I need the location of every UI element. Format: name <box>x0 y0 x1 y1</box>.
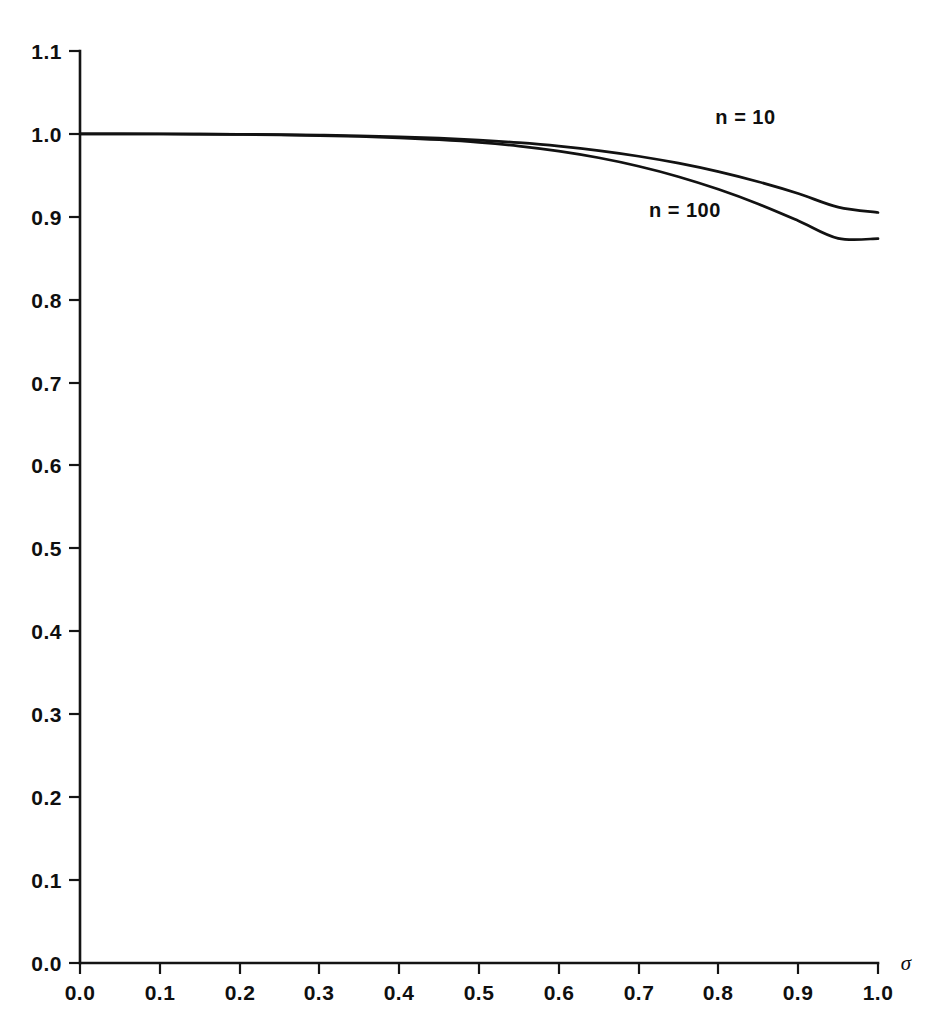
y-tick-label: 0.1 <box>31 869 62 892</box>
chart-figure: 1.1 1.0 0.9 0.8 0.7 0.6 0.5 0.4 0.3 0.2 … <box>0 0 945 1033</box>
series-line-n-10 <box>80 134 878 213</box>
y-tick-label: 1.0 <box>31 123 62 146</box>
x-tick-label: 1.0 <box>863 981 894 1004</box>
x-tick-label: 0.9 <box>783 981 814 1004</box>
y-tick-label: 0.5 <box>31 537 62 560</box>
x-tick-label: 0.0 <box>65 981 96 1004</box>
x-tick-label: 0.6 <box>544 981 575 1004</box>
chart-canvas: 1.1 1.0 0.9 0.8 0.7 0.6 0.5 0.4 0.3 0.2 … <box>0 0 945 1033</box>
y-tick-label: 0.0 <box>31 952 62 975</box>
y-axis-tick-labels: 1.1 1.0 0.9 0.8 0.7 0.6 0.5 0.4 0.3 0.2 … <box>31 40 62 975</box>
x-tick-label: 0.8 <box>703 981 734 1004</box>
series-label-n-100: n = 100 <box>649 199 721 221</box>
y-tick-label: 1.1 <box>31 40 62 63</box>
y-axis-ticks <box>69 51 80 963</box>
y-tick-label: 0.8 <box>31 289 62 312</box>
data-curves <box>80 134 878 240</box>
y-tick-label: 0.6 <box>31 454 62 477</box>
y-tick-label: 0.3 <box>31 703 62 726</box>
x-tick-label: 0.1 <box>145 981 176 1004</box>
x-tick-label: 0.2 <box>225 981 256 1004</box>
series-label-n-10: n = 10 <box>715 106 775 128</box>
x-axis-label-sigma: σ <box>901 951 913 975</box>
x-tick-label: 0.7 <box>624 981 655 1004</box>
y-tick-label: 0.2 <box>31 786 62 809</box>
x-tick-label: 0.5 <box>464 981 495 1004</box>
x-tick-label: 0.4 <box>384 981 415 1004</box>
y-tick-label: 0.9 <box>31 206 62 229</box>
series-line-n-100 <box>80 134 878 240</box>
x-axis-ticks <box>80 963 878 974</box>
x-tick-label: 0.3 <box>304 981 335 1004</box>
y-tick-label: 0.7 <box>31 372 62 395</box>
x-axis-tick-labels: 0.0 0.1 0.2 0.3 0.4 0.5 0.6 0.7 0.8 0.9 … <box>65 981 894 1004</box>
y-tick-label: 0.4 <box>31 620 62 643</box>
